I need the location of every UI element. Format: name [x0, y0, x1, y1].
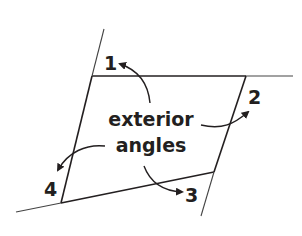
angle-label-4: 4 [44, 178, 57, 200]
caption-angles: angles [116, 134, 187, 156]
arrow-to-angle-1 [120, 64, 150, 103]
caption-exterior: exterior [108, 108, 194, 130]
angle-label-2: 2 [248, 86, 261, 108]
left-extension [92, 29, 104, 76]
left-side [61, 76, 92, 203]
arrow-to-angle-4 [58, 146, 105, 170]
angle-label-3: 3 [185, 184, 198, 206]
exterior-angles-diagram: 1 2 3 4 exterior angles [0, 0, 302, 236]
right-extension [201, 172, 214, 216]
bottom-extension [16, 203, 61, 212]
angle-label-1: 1 [104, 52, 117, 74]
arrow-to-angle-2 [201, 112, 248, 127]
